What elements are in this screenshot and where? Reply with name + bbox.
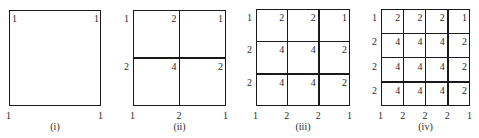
node-weight: 2 — [462, 37, 467, 47]
node-weight: 2 — [372, 86, 377, 96]
node-weight: 4 — [395, 62, 400, 72]
node-weight: 2 — [284, 111, 289, 121]
node-weight: 2 — [172, 14, 177, 24]
node-weight: 4 — [395, 37, 400, 47]
node-weight: 2 — [445, 111, 450, 121]
grid-horizontal-line — [257, 41, 349, 43]
grid-vertical-line — [287, 10, 289, 105]
node-weight: 1 — [94, 14, 99, 24]
node-weight: 4 — [418, 37, 423, 47]
panel-caption: (ii) — [173, 122, 185, 132]
grid-horizontal-line — [257, 73, 349, 75]
node-weight: 2 — [342, 45, 347, 55]
grid-horizontal-line — [382, 81, 469, 83]
node-weight: 2 — [279, 13, 284, 23]
node-weight: 2 — [218, 62, 223, 72]
grid-vertical-line — [447, 10, 449, 105]
node-weight: 4 — [395, 86, 400, 96]
node-weight: 4 — [418, 62, 423, 72]
node-weight: 1 — [124, 14, 129, 24]
node-weight: 2 — [462, 62, 467, 72]
node-weight: 2 — [177, 111, 182, 121]
node-weight: 1 — [347, 111, 352, 121]
node-weight: 4 — [440, 37, 445, 47]
node-weight: 2 — [316, 111, 321, 121]
node-weight: 1 — [342, 13, 347, 23]
node-weight: 4 — [279, 78, 284, 88]
node-weight: 1 — [467, 111, 472, 121]
grid-panel-1 — [9, 10, 101, 106]
node-weight: 4 — [418, 86, 423, 96]
node-weight: 2 — [395, 13, 400, 23]
node-weight: 2 — [400, 111, 405, 121]
node-weight: 4 — [311, 45, 316, 55]
panel-caption: (i) — [50, 122, 59, 132]
node-weight: 4 — [172, 62, 177, 72]
node-weight: 4 — [440, 62, 445, 72]
grid-vertical-line — [318, 10, 320, 105]
grid-panel-3 — [256, 9, 350, 106]
node-weight: 1 — [218, 14, 223, 24]
node-weight: 2 — [462, 86, 467, 96]
node-weight: 2 — [342, 78, 347, 88]
node-weight: 1 — [378, 111, 383, 121]
grid-horizontal-line — [134, 57, 225, 59]
node-weight: 2 — [418, 13, 423, 23]
node-weight: 1 — [223, 111, 228, 121]
node-weight: 1 — [12, 14, 17, 24]
node-weight: 1 — [98, 111, 103, 121]
node-weight: 4 — [311, 78, 316, 88]
node-weight: 1 — [247, 13, 252, 23]
panel-caption: (iii) — [296, 122, 311, 132]
grid-horizontal-line — [382, 57, 469, 59]
node-weight: 4 — [440, 86, 445, 96]
node-weight: 1 — [253, 111, 258, 121]
node-weight: 4 — [279, 45, 284, 55]
node-weight: 2 — [372, 62, 377, 72]
grid-panel-2 — [133, 10, 226, 106]
node-weight: 2 — [311, 13, 316, 23]
node-weight: 1 — [372, 13, 377, 23]
node-weight: 2 — [124, 62, 129, 72]
node-weight: 2 — [247, 78, 252, 88]
node-weight: 2 — [423, 111, 428, 121]
node-weight: 1 — [462, 13, 467, 23]
node-weight: 1 — [6, 111, 11, 121]
panel-caption: (iv) — [418, 122, 432, 132]
node-weight: 1 — [130, 111, 135, 121]
node-weight: 2 — [247, 45, 252, 55]
node-weight: 2 — [372, 37, 377, 47]
node-weight: 2 — [440, 13, 445, 23]
